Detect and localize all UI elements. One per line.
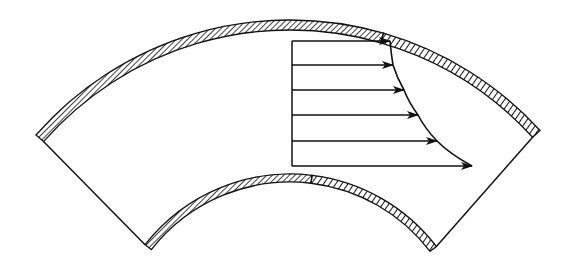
pipe-walls xyxy=(36,20,540,251)
outer-wall-hatched-left xyxy=(36,20,383,142)
pipe-bend-diagram xyxy=(0,0,571,262)
inner-wall-hatched-right xyxy=(311,175,436,251)
outer-wall-hatched-right xyxy=(381,33,540,137)
pipe-end-lines xyxy=(44,137,533,246)
left-end-line xyxy=(44,142,146,245)
inner-wall-hatched-left xyxy=(145,174,312,250)
